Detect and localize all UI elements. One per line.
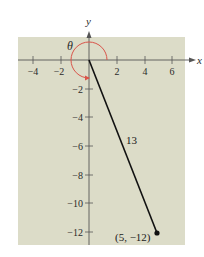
y-tick-label: −4 bbox=[72, 112, 83, 123]
y-axis-arrow-icon bbox=[87, 31, 92, 38]
y-tick-label: −6 bbox=[72, 141, 83, 152]
x-tick-label: 2 bbox=[115, 66, 120, 77]
y-tick-label: −2 bbox=[72, 84, 83, 95]
x-tick-label: −4 bbox=[28, 66, 39, 77]
x-axis-label: x bbox=[196, 54, 202, 66]
x-axis-arrow-icon bbox=[189, 58, 196, 63]
y-tick-label: −10 bbox=[67, 198, 83, 209]
segment-length-label: 13 bbox=[126, 134, 138, 146]
x-tick-label: −2 bbox=[54, 66, 65, 77]
y-tick-label: −8 bbox=[72, 170, 83, 181]
x-tick-label: 6 bbox=[170, 66, 175, 77]
terminal-point bbox=[154, 230, 159, 235]
x-tick-label: 4 bbox=[143, 66, 148, 77]
y-axis-label: y bbox=[85, 15, 91, 27]
theta-label: θ bbox=[67, 39, 73, 53]
plot-background bbox=[18, 37, 185, 245]
point-label: (5, −12) bbox=[115, 231, 151, 244]
y-tick-label: −12 bbox=[67, 227, 83, 238]
coordinate-plane-diagram: −4 −2 2 4 6 x −2 −4 −6 −8 −10 −12 y θ 13… bbox=[0, 0, 204, 257]
